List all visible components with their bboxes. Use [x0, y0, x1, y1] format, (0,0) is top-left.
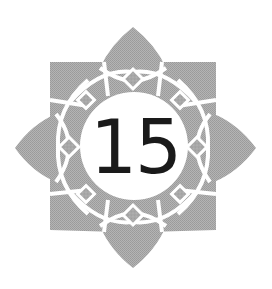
emblem-number: 15 — [83, 95, 187, 199]
